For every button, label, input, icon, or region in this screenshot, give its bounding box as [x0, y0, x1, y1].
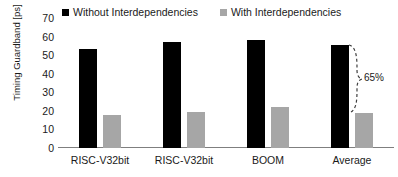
legend-swatch-black-square-icon: [62, 9, 69, 16]
x-axis-category-labels: RISC-V32bitRISC-V32bitBOOMAverage: [58, 154, 394, 174]
plot-area: [58, 18, 394, 148]
bar: [331, 45, 349, 148]
bar-group: [79, 18, 121, 148]
y-axis-tick-label: 60: [30, 31, 54, 42]
y-axis-tick-label: 50: [30, 50, 54, 61]
bar: [271, 107, 289, 148]
chart-legend: Without Interdependencies With Interdepe…: [62, 7, 341, 18]
legend-label-without-interdependencies: Without Interdependencies: [73, 7, 198, 18]
bar-group: [331, 18, 373, 148]
bar-chart: Without Interdependencies With Interdepe…: [0, 0, 398, 177]
bar: [79, 49, 97, 148]
y-axis-tick-label: 70: [30, 13, 54, 24]
y-axis-tick-label: 20: [30, 106, 54, 117]
bar: [355, 113, 373, 148]
y-axis-tick-label: 40: [30, 68, 54, 79]
bar: [103, 115, 121, 148]
x-axis-category-label: RISC-V32bit: [71, 154, 129, 166]
legend-entry-with-interdependencies: With Interdependencies: [220, 7, 341, 18]
bar: [163, 42, 181, 148]
legend-swatch-gray-square-icon: [220, 9, 227, 16]
x-axis-category-label: RISC-V32bit: [155, 154, 213, 166]
y-axis-title: Timing Guardband [ps]: [11, 0, 22, 113]
y-axis-tick-label: 10: [30, 124, 54, 135]
legend-label-with-interdependencies: With Interdependencies: [231, 7, 341, 18]
legend-entry-without-interdependencies: Without Interdependencies: [62, 7, 198, 18]
y-axis-tick-labels: 010203040506070: [30, 0, 54, 177]
bar-group: [163, 18, 205, 148]
bar: [247, 40, 265, 148]
y-axis-tick-label: 30: [30, 87, 54, 98]
bar: [187, 112, 205, 148]
bar-group: [247, 18, 289, 148]
annotation-label-65-percent: 65%: [364, 72, 384, 83]
x-axis-category-label: BOOM: [252, 154, 284, 166]
x-axis-category-label: Average: [333, 154, 372, 166]
y-axis-tick-label: 0: [30, 143, 54, 154]
